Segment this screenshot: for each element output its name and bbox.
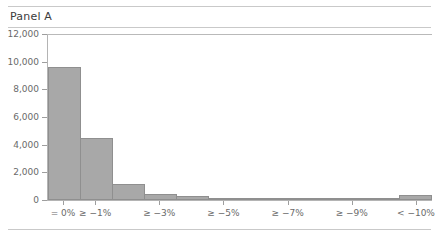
bar [144,194,177,200]
y-axis-tick-label: 0 [33,195,39,205]
x-axis-tick-mark [352,201,353,205]
x-axis-tick-mark [95,201,96,205]
bar [399,195,432,200]
y-axis-tick-label: 6,000 [13,112,39,122]
x-axis-tick-label: ≥ −5% [207,208,239,218]
y-axis-tick-label: 4,000 [13,140,39,150]
y-axis: 02,0004,0006,0008,00010,00012,000 [0,34,47,200]
panel-title-rule [8,27,431,28]
x-axis-tick-label: ≥ −7% [272,208,304,218]
y-axis-tick-label: 8,000 [13,84,39,94]
x-axis-tick-mark [416,201,417,205]
bar [271,198,304,200]
x-axis-tick-label: ≥ −1% [79,208,111,218]
bar [335,198,368,200]
bar [80,138,113,200]
panel-top-rule [8,6,431,7]
bar [48,67,81,200]
y-axis-tick-label: 10,000 [8,57,40,67]
x-axis-tick-label: < −10% [397,208,435,218]
x-axis-tick-mark [288,201,289,205]
x-axis-tick-label: ≥ −9% [336,208,368,218]
y-axis-tick-label: 2,000 [13,167,39,177]
bar [176,196,209,200]
bar [112,184,145,200]
bar [367,198,400,200]
x-axis-tick-mark [223,201,224,205]
bar [303,198,336,200]
x-axis-tick-label: = 0% [51,208,76,218]
page-title: Panel A [10,10,52,23]
y-axis-tick-label: 12,000 [8,29,40,39]
x-axis-tick-mark [63,201,64,205]
panel-bottom-rule [8,229,431,230]
panel-a-chart: Panel A 02,0004,0006,0008,00010,00012,00… [0,0,439,237]
bar-series [48,34,432,200]
bar [240,198,273,200]
x-axis: = 0%≥ −1%≥ −3%≥ −5%≥ −7%≥ −9%< −10% [47,201,432,231]
bar [208,198,241,200]
x-axis-tick-label: ≥ −3% [143,208,175,218]
x-axis-tick-mark [159,201,160,205]
